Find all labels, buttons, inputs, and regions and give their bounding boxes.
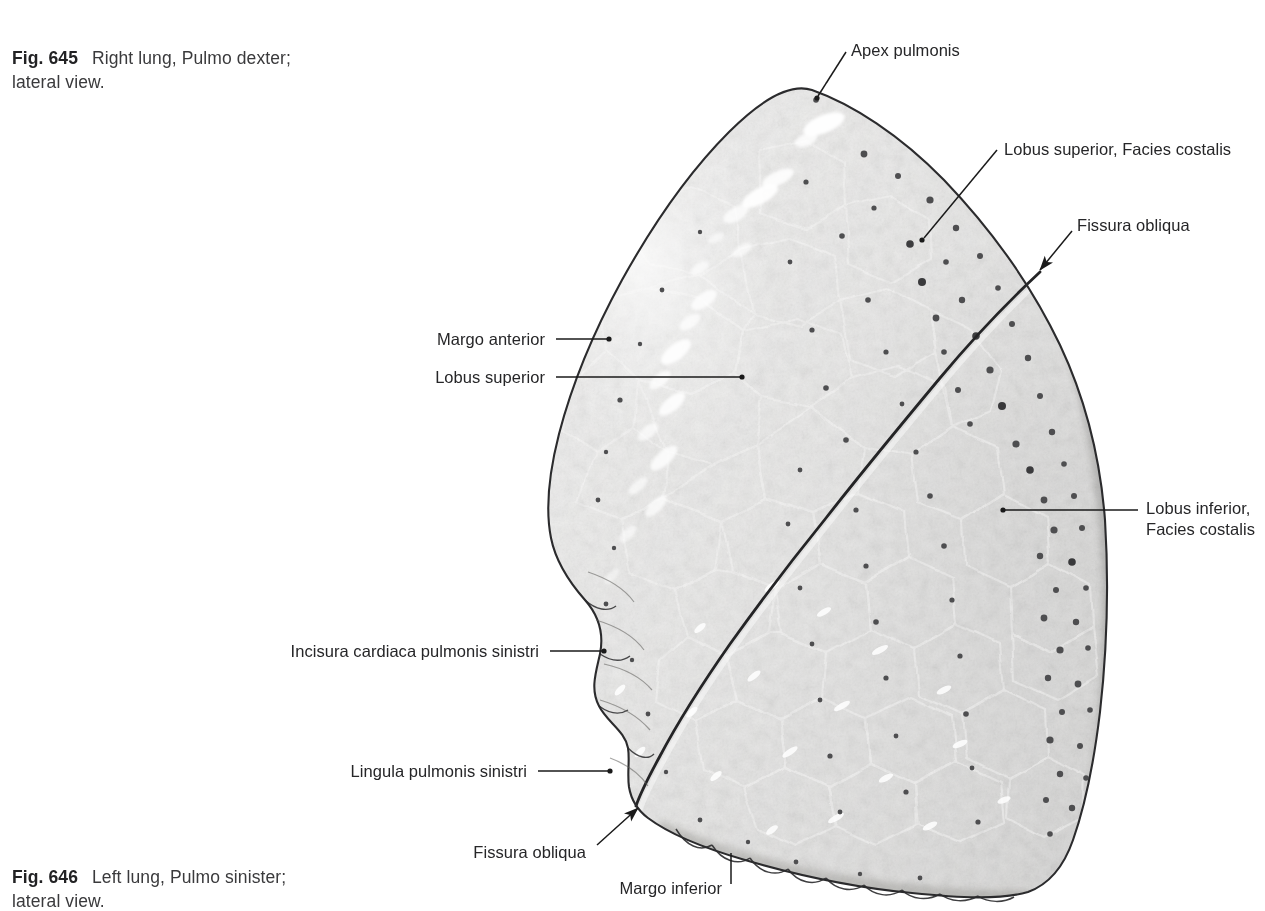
- figure-caption-646: Fig. 646Left lung, Pulmo sinister; later…: [12, 841, 286, 911]
- figure-caption-645: Fig. 645Right lung, Pulmo dexter; latera…: [12, 22, 291, 94]
- figure-number-646: Fig. 646: [12, 867, 78, 887]
- label-incisura-cardiaca-pulmonis-sinistri: Incisura cardiaca pulmonis sinistri: [291, 641, 539, 662]
- label-lingula-pulmonis-sinistri: Lingula pulmonis sinistri: [351, 761, 527, 782]
- label-apex-pulmonis: Apex pulmonis: [851, 40, 960, 61]
- label-margo-inferior: Margo inferior: [620, 878, 723, 899]
- label-lobus-superior: Lobus superior: [435, 367, 545, 388]
- label-fissura-obliqua-inferior: Fissura obliqua: [473, 842, 586, 863]
- figure-number-645: Fig. 645: [12, 48, 78, 68]
- lung-body: [514, 68, 1130, 904]
- label-margo-anterior: Margo anterior: [437, 329, 545, 350]
- label-fissura-obliqua-superior: Fissura obliqua: [1077, 215, 1190, 236]
- label-lobus-superior-facies-costalis: Lobus superior, Facies costalis: [1004, 139, 1231, 160]
- label-lobus-inferior-facies-costalis: Lobus inferior, Facies costalis: [1146, 498, 1255, 540]
